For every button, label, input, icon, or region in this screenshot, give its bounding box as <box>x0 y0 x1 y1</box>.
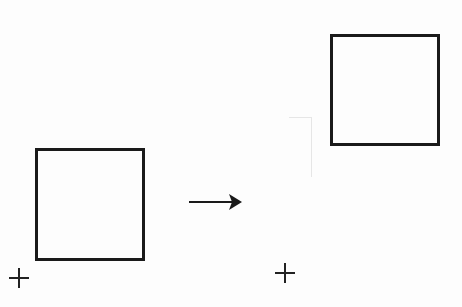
translated-square <box>330 34 440 146</box>
scan-artifact <box>289 117 311 118</box>
diagram-canvas <box>0 0 462 307</box>
translated-origin-marker-icon <box>275 263 295 283</box>
scan-artifact <box>311 117 312 177</box>
original-origin-marker-icon <box>9 268 29 288</box>
translation-arrow-icon <box>185 190 247 214</box>
original-square <box>35 148 145 261</box>
